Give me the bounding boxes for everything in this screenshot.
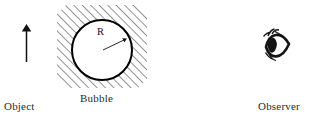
observer-label: Observer	[258, 100, 300, 112]
observer-eye-icon	[264, 29, 290, 61]
radius-label: R	[97, 26, 104, 38]
object-label: Object	[4, 100, 35, 112]
figure-canvas: Object Bubble Observer R	[0, 0, 311, 122]
bubble-label: Bubble	[80, 92, 113, 104]
